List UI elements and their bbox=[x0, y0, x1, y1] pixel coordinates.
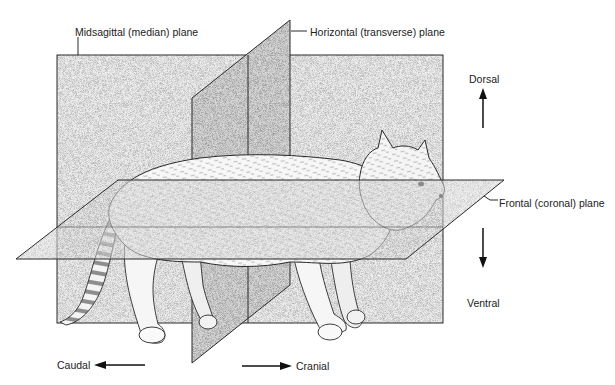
frontal-leader-line bbox=[484, 196, 498, 200]
midsagittal-plane-label: Midsagittal (median) plane bbox=[75, 26, 198, 38]
ventral-label: Ventral bbox=[467, 297, 500, 309]
caudal-arrow bbox=[94, 361, 145, 369]
horizontal-plane-label: Horizontal (transverse) plane bbox=[310, 26, 445, 38]
anatomical-planes-diagram: Midsagittal (median) plane Horizontal (t… bbox=[0, 0, 615, 385]
ventral-arrow bbox=[479, 228, 487, 268]
dorsal-arrow bbox=[479, 88, 487, 128]
cat-paw bbox=[318, 324, 342, 340]
cat-paw bbox=[199, 315, 217, 329]
cranial-arrow bbox=[242, 362, 292, 370]
cranial-label: Cranial bbox=[296, 360, 329, 372]
caudal-label: Caudal bbox=[57, 359, 90, 371]
frontal-plane-label: Frontal (coronal) plane bbox=[499, 197, 605, 209]
dorsal-label: Dorsal bbox=[469, 73, 499, 85]
cat-paw bbox=[139, 327, 165, 343]
cat-paw bbox=[347, 310, 365, 324]
